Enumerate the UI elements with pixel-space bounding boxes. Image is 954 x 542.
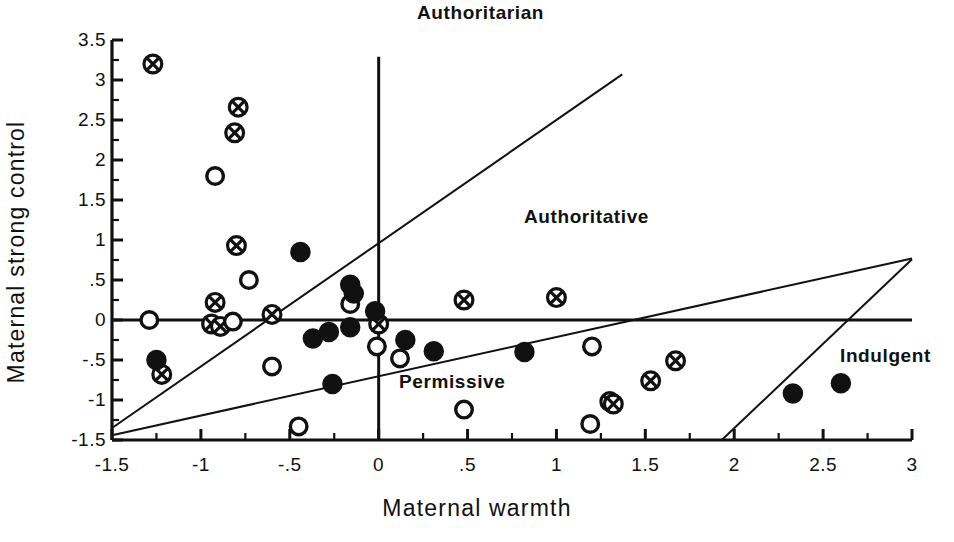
- marker-open-circle: [207, 168, 224, 185]
- marker-open-circle: [241, 272, 258, 289]
- data-point-crossed-circle: [206, 294, 224, 312]
- marker-open-circle: [582, 416, 599, 433]
- x-tick-label: 0: [373, 454, 384, 476]
- marker-open-circle: [369, 338, 386, 355]
- marker-filled-circle: [783, 384, 802, 403]
- data-point-open-circle: [456, 401, 473, 418]
- marker-filled-circle: [147, 351, 166, 370]
- data-point-filled-circle: [396, 331, 415, 350]
- x-tick-label: -1.5: [95, 454, 130, 476]
- marker-filled-circle: [515, 343, 534, 362]
- x-tick-label: 3: [906, 454, 917, 476]
- reference-line-steep-diagonal: [112, 74, 622, 428]
- data-point-open-circle: [392, 350, 409, 367]
- marker-open-circle: [290, 418, 307, 435]
- data-point-filled-circle: [424, 342, 443, 361]
- data-point-crossed-circle: [226, 124, 244, 142]
- quadrant-label-indulgent: Indulgent: [840, 345, 931, 367]
- y-tick-label: 2: [95, 149, 106, 171]
- x-tick-label: -.5: [278, 454, 302, 476]
- x-tick-label: -1: [192, 454, 210, 476]
- marker-filled-circle: [831, 374, 850, 393]
- data-point-crossed-circle: [455, 291, 473, 309]
- data-point-crossed-circle: [228, 237, 246, 255]
- marker-open-circle: [392, 350, 409, 367]
- marker-open-circle: [456, 401, 473, 418]
- y-tick-label: .5: [89, 269, 106, 291]
- data-point-open-circle: [207, 168, 224, 185]
- marker-open-circle: [225, 313, 242, 330]
- x-tick-label: 1: [551, 454, 562, 476]
- y-tick-label: -1: [88, 389, 106, 411]
- data-point-filled-circle: [366, 302, 385, 321]
- x-axis-title: Maternal warmth: [382, 495, 571, 522]
- reference-line-shallow-diagonal: [112, 258, 912, 435]
- y-tick-label: 3.5: [78, 29, 106, 51]
- marker-open-circle: [264, 358, 281, 375]
- data-point-crossed-circle: [548, 289, 566, 307]
- data-point-open-circle: [369, 338, 386, 355]
- y-tick-label: -.5: [82, 349, 106, 371]
- data-point-filled-circle: [319, 323, 338, 342]
- quadrant-label-authoritarian: Authoritarian: [417, 2, 544, 24]
- marker-filled-circle: [366, 302, 385, 321]
- y-tick-label: -1.5: [71, 429, 106, 451]
- data-point-filled-circle: [341, 318, 360, 337]
- y-axis-title: Maternal strong control: [3, 121, 30, 384]
- marker-filled-circle: [319, 323, 338, 342]
- marker-filled-circle: [323, 375, 342, 394]
- quadrant-label-permissive: Permissive: [399, 371, 505, 393]
- marker-open-circle: [584, 338, 601, 355]
- x-tick-label: 2: [729, 454, 740, 476]
- data-point-crossed-circle: [144, 55, 162, 73]
- marker-filled-circle: [344, 284, 363, 303]
- y-tick-label: 3: [95, 69, 106, 91]
- data-point-open-circle: [225, 313, 242, 330]
- marker-filled-circle: [291, 243, 310, 262]
- x-tick-label: 2.5: [809, 454, 837, 476]
- marker-filled-circle: [396, 331, 415, 350]
- data-point-crossed-circle: [229, 98, 247, 116]
- quadrant-label-authoritative: Authoritative: [524, 206, 649, 228]
- y-tick-label: 1.5: [78, 189, 106, 211]
- data-point-filled-circle: [147, 351, 166, 370]
- x-tick-label: .5: [459, 454, 476, 476]
- data-point-open-circle: [582, 416, 599, 433]
- data-point-crossed-circle: [667, 352, 685, 370]
- y-tick-label: 0: [95, 309, 106, 331]
- data-point-filled-circle: [344, 284, 363, 303]
- data-point-crossed-circle: [263, 306, 281, 324]
- data-point-crossed-circle: [604, 395, 622, 413]
- y-tick-label: 1: [95, 229, 106, 251]
- y-tick-label: 2.5: [78, 109, 106, 131]
- scatter-plot-figure: -1.5-1-.50.511.522.533.532.521.51.50-.5-…: [0, 0, 954, 542]
- data-point-filled-circle: [831, 374, 850, 393]
- data-point-open-circle: [584, 338, 601, 355]
- data-point-filled-circle: [783, 384, 802, 403]
- marker-filled-circle: [341, 318, 360, 337]
- data-point-open-circle: [264, 358, 281, 375]
- x-tick-label: 1.5: [631, 454, 659, 476]
- data-point-crossed-circle: [642, 372, 660, 390]
- data-point-open-circle: [290, 418, 307, 435]
- data-point-open-circle: [141, 312, 158, 329]
- data-point-filled-circle: [515, 343, 534, 362]
- marker-filled-circle: [424, 342, 443, 361]
- marker-open-circle: [141, 312, 158, 329]
- data-point-filled-circle: [291, 243, 310, 262]
- data-point-filled-circle: [323, 375, 342, 394]
- data-point-open-circle: [241, 272, 258, 289]
